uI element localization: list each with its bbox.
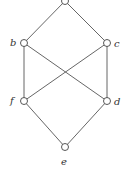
edge-a-b: [24, 1, 65, 43]
node-f: [21, 98, 28, 105]
node-a: [62, 0, 69, 5]
label-f: f: [9, 95, 16, 106]
edges: [24, 1, 107, 147]
hasse-diagram: b c f d e: [0, 0, 127, 171]
label-c: c: [114, 38, 120, 49]
label-b: b: [10, 37, 16, 48]
edge-f-e: [24, 101, 65, 147]
edge-a-c: [65, 1, 107, 43]
nodes: [21, 0, 111, 151]
node-b: [21, 40, 28, 47]
node-e: [62, 144, 69, 151]
node-d: [104, 98, 111, 105]
node-c: [104, 40, 111, 47]
label-d: d: [114, 96, 120, 107]
edge-d-e: [65, 101, 107, 147]
label-e: e: [61, 156, 67, 167]
